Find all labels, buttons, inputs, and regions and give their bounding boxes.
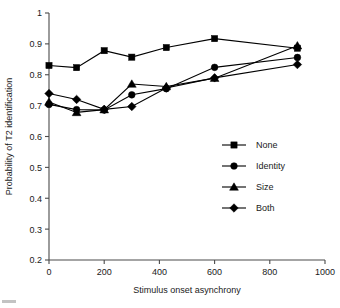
legend-marker-square (231, 142, 237, 148)
y-axis: 0.20.30.40.50.60.70.80.91 (29, 8, 49, 265)
data-point-diamond (162, 84, 171, 93)
y-tick-label: 0.3 (29, 225, 42, 235)
data-point-square (46, 62, 52, 68)
legend-marker-circle (231, 163, 238, 170)
series-both (45, 60, 302, 113)
x-axis-ticks: 02004006008001000 (46, 260, 335, 277)
y-tick-label: 1 (37, 8, 42, 18)
x-tick-label: 1000 (315, 267, 335, 277)
y-tick-label: 0.6 (29, 132, 42, 142)
y-tick-label: 0.7 (29, 101, 42, 111)
data-point-square (212, 36, 218, 42)
data-point-square (163, 44, 169, 50)
legend-label: Identity (256, 161, 286, 171)
legend-item-size: Size (222, 182, 274, 192)
y-tick-label: 0.4 (29, 194, 42, 204)
data-point-diamond (72, 95, 81, 104)
x-tick-label: 0 (46, 267, 51, 277)
chart-container: 0.20.30.40.50.60.70.80.91 02004006008001… (0, 0, 340, 308)
y-tick-label: 0.8 (29, 70, 42, 80)
data-point-diamond (293, 60, 302, 69)
legend-label: Both (256, 203, 275, 213)
x-tick-label: 600 (207, 267, 222, 277)
series-line (49, 57, 297, 109)
legend-label: None (256, 140, 278, 150)
data-point-circle (211, 64, 218, 71)
line-chart: 0.20.30.40.50.60.70.80.91 02004006008001… (0, 0, 340, 308)
x-axis: 02004006008001000 (46, 260, 335, 277)
x-tick-label: 400 (152, 267, 167, 277)
chart-legend: NoneIdentitySizeBoth (222, 140, 286, 213)
data-point-triangle (45, 98, 54, 105)
y-axis-ticks: 0.20.30.40.50.60.70.80.91 (29, 8, 49, 265)
data-point-circle (128, 91, 135, 98)
data-point-diamond (45, 89, 54, 98)
plot-series-group (45, 36, 302, 116)
series-none (46, 36, 301, 71)
data-point-diamond (128, 102, 137, 111)
data-point-square (129, 54, 135, 60)
legend-marker-diamond (230, 204, 239, 213)
legend-label: Size (256, 182, 274, 192)
series-line (49, 65, 297, 110)
y-axis-title: Probability of T2 identification (4, 78, 14, 195)
x-tick-label: 800 (262, 267, 277, 277)
series-line (49, 39, 297, 68)
legend-item-identity: Identity (222, 161, 286, 171)
legend-item-none: None (222, 140, 278, 150)
data-point-triangle (127, 80, 136, 87)
x-tick-label: 200 (97, 267, 112, 277)
y-tick-label: 0.9 (29, 39, 42, 49)
y-tick-label: 0.5 (29, 163, 42, 173)
data-point-square (74, 65, 80, 71)
data-point-circle (294, 54, 301, 61)
page-scan-artifact (2, 300, 16, 303)
legend-item-both: Both (222, 203, 275, 213)
y-tick-label: 0.2 (29, 255, 42, 265)
series-size (45, 42, 302, 116)
data-point-square (101, 48, 107, 54)
x-axis-title: Stimulus onset asynchrony (133, 285, 241, 295)
